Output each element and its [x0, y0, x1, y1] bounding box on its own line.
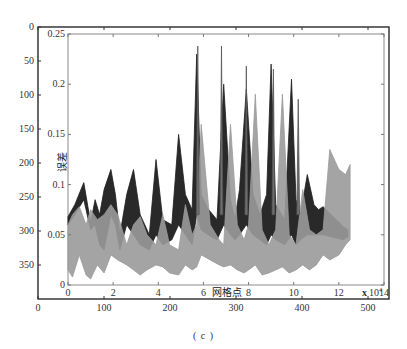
outer-x-tick-label: 400: [295, 302, 310, 313]
figure-caption: ( c ): [0, 330, 407, 341]
y-tick-label: 0: [60, 279, 65, 290]
outer-x-tick-label: 200: [163, 302, 178, 313]
x-tick-label: 10: [289, 287, 299, 298]
outer-x-tick-label: 500: [361, 302, 376, 313]
x-tick-label: 0: [66, 287, 71, 298]
outer-y-tick-label: 350: [19, 259, 34, 270]
y-tick-label: 0.1: [53, 179, 66, 190]
x-tick-label: 6: [201, 287, 206, 298]
outer-y-tick-label: 50: [24, 55, 34, 66]
outer-y-tick-label: 300: [19, 225, 34, 236]
y-tick-label: 0.2: [53, 78, 66, 89]
outer-y-tick-label: 150: [19, 123, 34, 134]
outer-x-tick-label: 0: [36, 302, 41, 313]
y-tick-label: 0.05: [48, 229, 66, 240]
outer-x-tick-label: 100: [97, 302, 112, 313]
outer-y-tick-label: 100: [19, 89, 34, 100]
outer-x-tick-label: 300: [229, 302, 244, 313]
y-tick-label: 0.15: [48, 128, 66, 139]
x-tick-label: 2: [111, 287, 116, 298]
x-tick-label: 4: [156, 287, 161, 298]
outer-y-tick-label: 200: [19, 157, 34, 168]
chart-figure: 050100150200250300350 0100200300400500 0…: [0, 0, 407, 349]
y-tick-label: 0.25: [48, 28, 66, 39]
x-tick-label: 8: [246, 287, 251, 298]
x-tick-label: 12: [334, 287, 344, 298]
x-axis-title: 网格点: [212, 286, 242, 298]
outer-y-tick-label: 0: [29, 21, 34, 32]
y-axis-title: 误差: [56, 152, 68, 172]
outer-y-tick-label: 250: [19, 191, 34, 202]
